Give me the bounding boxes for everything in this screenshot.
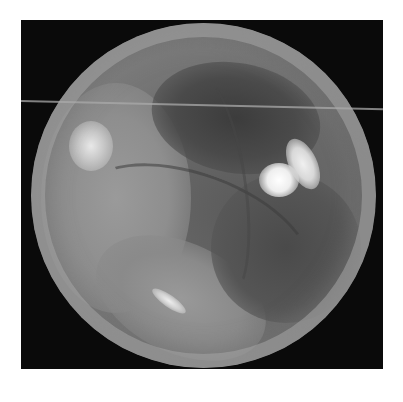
otoscope-field: [31, 23, 376, 368]
scope-rim: [31, 23, 376, 368]
image-frame: [21, 20, 383, 369]
